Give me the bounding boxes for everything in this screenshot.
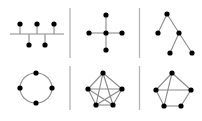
- network-node: [33, 70, 38, 75]
- topology-diagram-svg: [0, 0, 202, 121]
- network-node: [169, 70, 174, 75]
- network-node: [119, 86, 124, 91]
- network-node: [26, 42, 31, 47]
- network-node: [161, 103, 166, 108]
- network-node: [17, 21, 22, 26]
- network-node: [100, 70, 105, 75]
- ring-topology: [17, 70, 54, 105]
- network-link: [156, 90, 164, 106]
- network-link: [158, 14, 167, 33]
- network-node: [51, 21, 56, 26]
- network-node: [178, 103, 183, 108]
- network-link: [167, 14, 179, 33]
- network-link: [179, 33, 192, 53]
- full-mesh-topology: [85, 70, 124, 107]
- network-topology-diagram: [0, 0, 202, 121]
- network-node: [17, 85, 22, 90]
- network-node: [93, 102, 98, 107]
- bus-topology: [10, 21, 64, 47]
- network-link: [181, 90, 191, 106]
- network-node: [34, 21, 39, 26]
- network-node: [164, 11, 169, 16]
- network-node: [49, 85, 54, 90]
- network-link: [172, 73, 191, 90]
- network-node: [86, 30, 91, 35]
- network-node: [167, 50, 172, 55]
- network-node: [188, 87, 193, 92]
- tree-topology: [155, 11, 194, 55]
- network-node: [103, 47, 108, 52]
- network-node: [189, 50, 194, 55]
- partial-mesh-topology: [153, 70, 193, 108]
- network-node: [176, 30, 181, 35]
- network-node: [103, 30, 108, 35]
- network-node: [119, 30, 124, 35]
- network-link: [170, 33, 179, 53]
- network-node: [85, 86, 90, 91]
- network-node: [110, 102, 115, 107]
- network-node: [153, 87, 158, 92]
- star-topology: [86, 12, 124, 52]
- network-node: [33, 100, 38, 105]
- ring-link: [20, 73, 52, 103]
- network-node: [103, 12, 108, 17]
- network-node: [155, 30, 160, 35]
- network-node: [42, 42, 47, 47]
